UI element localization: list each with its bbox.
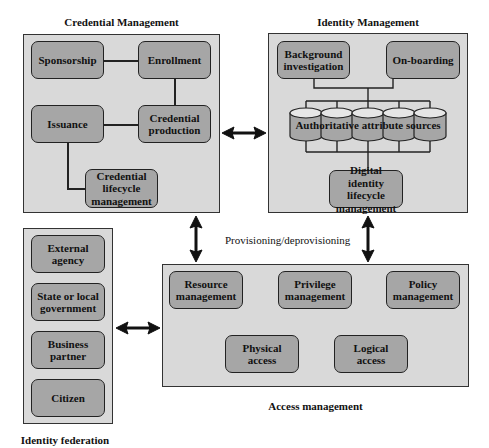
authoritative-sources-label: Authoritative attribute sources [290,119,446,131]
federation-external-agency-box: External agency [31,235,105,273]
privilege-management-box: Privilege management [278,271,352,309]
access-management-title: Access management [162,400,469,412]
logical-access-box: Logical access [334,335,408,373]
provisioning-label: Provisioning/deprovisioning [225,234,350,246]
physical-access-box: Physical access [225,335,299,373]
policy-management-box: Policy management [386,271,460,309]
federation-business-partner-box: Business partner [31,331,105,369]
federation-state-local-box: State or local government [31,283,105,321]
resource-management-box: Resource management [169,271,243,309]
identity-federation-title: Identity federation [0,434,130,446]
federation-citizen-box: Citizen [31,379,105,417]
digital-identity-lifecycle-box: Digital identity lifecycle management [329,170,403,208]
